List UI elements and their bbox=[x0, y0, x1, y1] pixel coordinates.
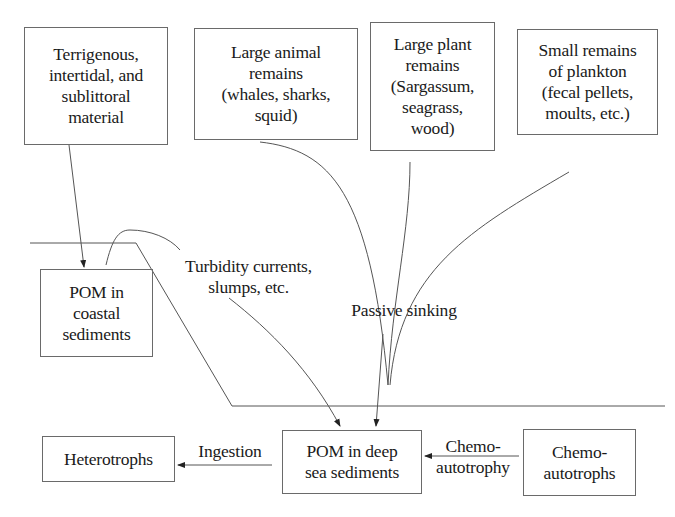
label-passive-sinking: Passive sinking bbox=[330, 300, 478, 321]
box-chemoautotrophs: Chemo- autotrophs bbox=[523, 429, 636, 496]
box-pom-deep-label: POM in deep sea sediments bbox=[305, 441, 399, 483]
label-turbidity-currents: Turbidity currents, slumps, etc. bbox=[166, 256, 331, 298]
box-large-animal-label: Large animal remains (whales, sharks, sq… bbox=[221, 42, 330, 126]
box-heterotrophs: Heterotrophs bbox=[42, 436, 175, 482]
curve-plankton-to-sinking bbox=[390, 172, 569, 385]
box-large-plant-label: Large plant remains (Sargassum, seagrass… bbox=[391, 34, 475, 139]
box-chemoautotrophs-label: Chemo- autotrophs bbox=[544, 442, 616, 484]
box-large-animal-remains: Large animal remains (whales, sharks, sq… bbox=[194, 28, 358, 140]
box-terrigenous-material: Terrigenous, intertidal, and sublittoral… bbox=[24, 27, 168, 145]
arrow-terrigenous-to-coastal bbox=[69, 145, 84, 267]
box-large-plant-remains: Large plant remains (Sargassum, seagrass… bbox=[370, 22, 495, 151]
box-small-plankton-label: Small remains of plankton (fecal pellets… bbox=[538, 40, 636, 124]
arrow-sinking-to-deep bbox=[376, 334, 383, 426]
box-terrigenous-label: Terrigenous, intertidal, and sublittoral… bbox=[49, 44, 143, 128]
arrow-turbidity-to-deep bbox=[229, 298, 340, 426]
pom-flow-diagram: Terrigenous, intertidal, and sublittoral… bbox=[0, 0, 675, 517]
box-small-plankton-remains: Small remains of plankton (fecal pellets… bbox=[517, 29, 658, 135]
box-pom-coastal-label: POM in coastal sediments bbox=[62, 282, 130, 345]
box-heterotrophs-label: Heterotrophs bbox=[64, 449, 153, 470]
label-chemoautotrophy: Chemo- autotrophy bbox=[425, 436, 521, 478]
curve-plant-to-sinking bbox=[388, 162, 410, 385]
box-pom-coastal-sediments: POM in coastal sediments bbox=[40, 269, 153, 357]
box-pom-deep-sea-sediments: POM in deep sea sediments bbox=[282, 430, 422, 494]
label-ingestion: Ingestion bbox=[188, 441, 272, 462]
